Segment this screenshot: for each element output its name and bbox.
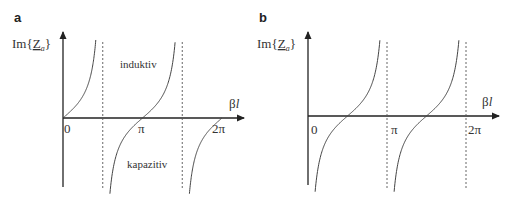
tick-label-b-pi: π — [391, 122, 398, 137]
x-axis-label-b: βl — [482, 94, 493, 109]
annotation-induktiv: induktiv — [120, 58, 157, 70]
panel-b: b Im{Za} βl 0 π 2π — [257, 10, 499, 192]
annotation-kapazitiv: kapazitiv — [127, 158, 168, 170]
y-axis-label-b: Im{Za} — [257, 36, 296, 53]
tick-label-b-0: 0 — [311, 122, 318, 137]
figure: a Im{Za} βl 0 π 2π induktiv kapazitiv b … — [0, 0, 509, 202]
x-axis-label-a: βl — [229, 96, 240, 111]
panel-label-b: b — [259, 10, 267, 25]
tick-label-b-2pi: 2π — [468, 122, 482, 137]
y-axis-label-a: Im{Za} — [12, 36, 51, 53]
panel-label-a: a — [14, 10, 22, 25]
panel-a: a Im{Za} βl 0 π 2π induktiv kapazitiv — [12, 10, 244, 194]
tick-label-a-0: 0 — [64, 121, 71, 136]
tick-label-a-2pi: 2π — [212, 121, 226, 136]
curve-branch-a-0 — [63, 40, 96, 118]
tick-label-a-pi: π — [138, 121, 145, 136]
